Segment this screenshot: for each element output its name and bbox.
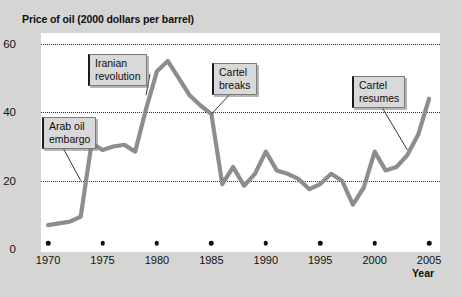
annotation-iranian-revolution: Iranian revolution bbox=[88, 54, 147, 86]
x-tick-dot-1985 bbox=[209, 241, 214, 246]
x-tick-dot-2000 bbox=[372, 241, 377, 246]
x-tick-label-1970: 1970 bbox=[36, 254, 60, 266]
annotation-cartel-breaks: Cartel breaks bbox=[212, 63, 257, 95]
y-tick-label-20: 20 bbox=[0, 175, 16, 187]
x-tick-label-1975: 1975 bbox=[90, 254, 114, 266]
x-tick-dot-1975 bbox=[100, 241, 105, 246]
annotation-cartel-resumes: Cartel resumes bbox=[352, 76, 405, 108]
x-tick-label-1990: 1990 bbox=[254, 254, 278, 266]
y-tick-label-60: 60 bbox=[0, 38, 16, 50]
gridline-60 bbox=[41, 44, 440, 45]
y-tick-label-40: 40 bbox=[0, 106, 16, 118]
x-tick-dot-1990 bbox=[264, 241, 269, 246]
x-tick-dot-1980 bbox=[155, 241, 160, 246]
x-tick-dot-1995 bbox=[318, 241, 323, 246]
x-axis-label: Year bbox=[412, 267, 434, 279]
chart-title: Price of oil (2000 dollars per barrel) bbox=[22, 13, 194, 25]
x-tick-label-2000: 2000 bbox=[362, 254, 386, 266]
x-tick-label-1980: 1980 bbox=[145, 254, 169, 266]
y-tick-label-0: 0 bbox=[0, 243, 16, 255]
x-tick-label-2005: 2005 bbox=[417, 254, 441, 266]
x-tick-dot-1970 bbox=[46, 241, 51, 246]
annotation-arab-oil-embargo: Arab oil embargo bbox=[42, 117, 96, 149]
x-tick-label-1985: 1985 bbox=[199, 254, 223, 266]
gridline-40 bbox=[41, 112, 440, 113]
chart-figure: Price of oil (2000 dollars per barrel) 0… bbox=[0, 0, 462, 297]
x-tick-label-1995: 1995 bbox=[308, 254, 332, 266]
gridline-20 bbox=[41, 181, 440, 182]
x-tick-dot-2005 bbox=[427, 241, 432, 246]
